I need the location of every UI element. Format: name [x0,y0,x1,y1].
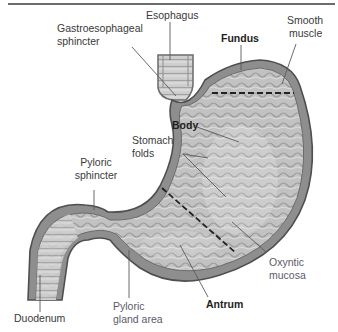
label-line: Smooth [287,14,323,27]
esophagus-tube [158,55,193,100]
label-line: muscle [287,27,323,40]
label-line: mucosa [269,269,306,282]
label-line: Gastroesophageal [57,22,143,35]
label-esophagus: Esophagus [146,9,199,22]
label-line: sphincter [72,169,120,182]
label-pyloric-sphincter: Pyloric sphincter [72,156,120,182]
label-smooth-muscle: Smooth muscle [287,14,323,40]
label-gastroesophageal-sphincter: Gastroesophageal sphincter [57,22,143,48]
label-line: Pyloric [72,156,120,169]
label-line: Oxyntic [269,256,306,269]
label-line: folds [132,147,173,160]
stomach-illustration [0,0,338,332]
label-body: Body [172,119,198,132]
label-fundus: Fundus [221,32,259,45]
label-line: Stomach [132,134,173,147]
label-line: sphincter [57,35,143,48]
label-stomach-folds: Stomach folds [132,134,173,160]
label-pyloric-gland-area: Pyloric gland area [113,300,163,326]
label-line: Pyloric [113,300,163,313]
label-line: gland area [113,313,163,326]
label-antrum: Antrum [206,298,243,311]
label-oxyntic-mucosa: Oxyntic mucosa [269,256,306,282]
label-duodenum: Duodenum [14,312,65,325]
